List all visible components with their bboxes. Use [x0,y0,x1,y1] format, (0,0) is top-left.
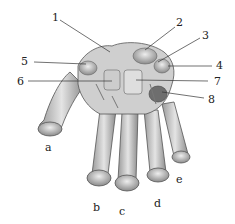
label-a: a [45,142,52,153]
label-7: 7 [214,76,221,87]
label-b: b [93,202,100,213]
metacarpal-a [38,72,84,136]
metacarpal-c [115,112,139,191]
label-5: 5 [21,56,28,67]
label-d: d [154,198,161,209]
metacarpal-b [87,110,116,186]
label-2: 2 [176,17,183,28]
label-e: e [176,174,183,185]
carpal-bones [78,43,174,114]
label-4: 4 [216,60,223,71]
label-8: 8 [208,94,215,105]
metacarpal-e [162,102,190,163]
label-3: 3 [202,30,209,41]
metacarpal-d [144,110,169,182]
hand-bones-illustration [0,0,235,224]
label-6: 6 [17,76,24,87]
label-1: 1 [52,12,59,23]
label-c: c [119,206,125,217]
